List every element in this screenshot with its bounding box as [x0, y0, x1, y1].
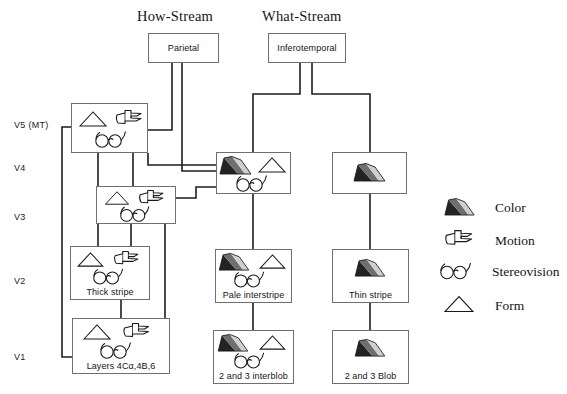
- legend-row-color: Color: [443, 196, 526, 220]
- legend-label-form: Form: [495, 298, 524, 314]
- node-inferotemporal-label: Inferotemporal: [269, 34, 345, 62]
- node-v2-pale-interstripe[interactable]: Pale interstripe: [215, 249, 292, 303]
- node-v2-thin-stripe[interactable]: Thin stripe: [332, 249, 409, 303]
- wire-parietal-to-v5: [148, 63, 172, 130]
- node-v1-layers-label: Layers 4Cα,4B,6: [73, 361, 169, 371]
- node-v5-icons: [72, 104, 147, 152]
- color-icon: [352, 162, 388, 187]
- legend-label-motion: Motion: [495, 233, 535, 249]
- node-v1-layers[interactable]: Layers 4Cα,4B,6: [72, 318, 170, 374]
- wire-parietal-to-v4mid: [182, 63, 216, 171]
- node-v1-interblob-label: 2 and 3 interblob: [214, 371, 293, 381]
- tier-label-v3: V3: [14, 212, 26, 222]
- what-stream-title: What-Stream: [262, 8, 342, 25]
- stereovision-icon: [119, 204, 155, 227]
- node-v1-blob-label: 2 and 3 Blob: [333, 371, 408, 381]
- node-v4-mid[interactable]: [216, 152, 291, 194]
- tier-label-v5: V5 (MT): [14, 120, 49, 130]
- node-v2-thick-label: Thick stripe: [71, 287, 149, 297]
- node-v2-thick-stripe[interactable]: Thick stripe: [70, 246, 150, 300]
- tier-label-v4: V4: [14, 163, 26, 173]
- node-v1-blob[interactable]: 2 and 3 Blob: [332, 330, 409, 384]
- node-v4-right-icons: [333, 153, 406, 193]
- node-v2-pale-label: Pale interstripe: [216, 290, 291, 300]
- legend-row-motion: Motion: [443, 229, 535, 253]
- form-icon: [443, 294, 477, 318]
- node-v5[interactable]: [71, 103, 148, 153]
- wire-it-to-v4right: [312, 63, 370, 152]
- motion-icon: [443, 229, 477, 253]
- wire-it-to-v4mid: [253, 63, 300, 152]
- node-v4-right[interactable]: [332, 152, 407, 194]
- node-v4-mid-icons: [217, 153, 290, 193]
- legend-row-form: Form: [443, 294, 524, 318]
- node-parietal[interactable]: Parietal: [148, 33, 219, 63]
- tier-label-v1: V1: [14, 352, 26, 362]
- stereovision-icon: [235, 173, 273, 197]
- stereovision-icon: [439, 260, 477, 284]
- legend-label-stereovision: Stereovision: [492, 264, 560, 280]
- legend: Color Motion Stereovision: [443, 196, 563, 326]
- legend-label-color: Color: [495, 200, 526, 216]
- node-inferotemporal[interactable]: Inferotemporal: [268, 33, 346, 63]
- wire-v4mid-to-v3: [176, 187, 216, 198]
- color-icon: [353, 258, 388, 282]
- diagram-canvas: How-Stream What-Stream V5 (MT) V4 V3 V2 …: [0, 0, 567, 394]
- node-parietal-label: Parietal: [149, 34, 218, 62]
- color-icon: [353, 338, 388, 362]
- how-stream-title: How-Stream: [137, 8, 213, 25]
- node-v3[interactable]: [96, 186, 176, 224]
- node-v1-interblob[interactable]: 2 and 3 interblob: [213, 330, 294, 384]
- legend-row-stereovision: Stereovision: [439, 260, 560, 284]
- color-icon: [443, 196, 477, 220]
- tier-label-v2: V2: [14, 276, 26, 286]
- stereovision-icon: [94, 129, 132, 153]
- node-v2-thin-label: Thin stripe: [333, 290, 408, 300]
- node-v3-icons: [97, 187, 175, 223]
